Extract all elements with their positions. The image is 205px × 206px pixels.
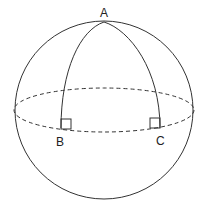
arc-a-c — [104, 22, 160, 128]
right-angle-marker-c — [150, 118, 160, 128]
label-b: B — [56, 136, 64, 148]
sphere-outline — [15, 21, 193, 199]
arc-a-b — [61, 22, 104, 128]
label-a: A — [100, 7, 108, 19]
sphere-diagram — [0, 0, 205, 206]
equator-dashed — [14, 88, 194, 132]
label-c: C — [156, 135, 165, 147]
right-angle-marker-b — [61, 119, 71, 129]
